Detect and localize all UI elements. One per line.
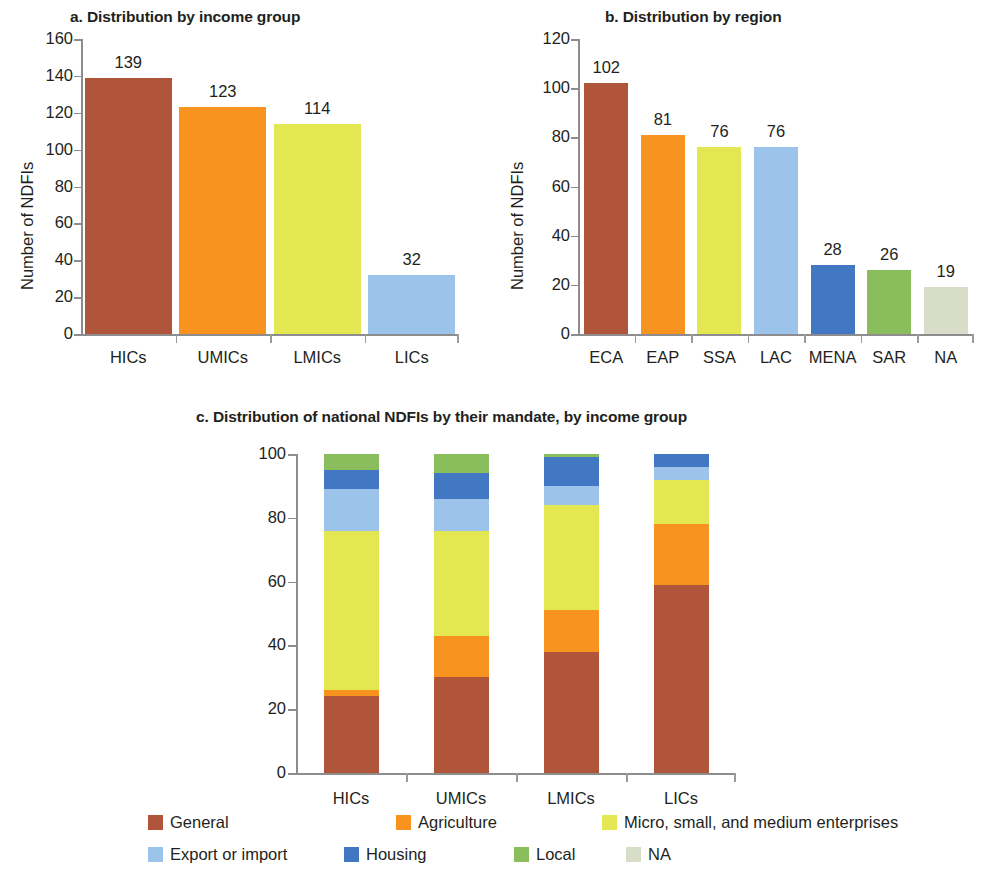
y-tick-mark [571, 187, 578, 189]
y-tick-label: 0 [238, 764, 286, 781]
y-tick-label: 80 [526, 128, 570, 145]
y-tick-label: 100 [238, 445, 286, 462]
stacked-bar-hics [324, 454, 379, 773]
figure-canvas: a. Distribution by income group Number o… [0, 0, 995, 877]
y-tick-mark [571, 137, 578, 139]
legend-swatch [626, 847, 641, 862]
y-axis-line [296, 454, 298, 773]
y-tick-mark [74, 150, 81, 152]
bar-eap [641, 135, 685, 334]
x-category-label-hics: HICs [78, 348, 178, 367]
legend-label: Local [536, 846, 575, 863]
bar-lac [754, 147, 798, 334]
legend-label: NA [648, 846, 671, 863]
x-tick-separator [748, 334, 750, 343]
x-tick-separator [626, 773, 628, 782]
x-category-label-lmics: LMICs [267, 348, 367, 367]
stack-segment [324, 470, 379, 489]
x-tick-separator [691, 334, 693, 343]
x-tick-separator [365, 334, 367, 343]
x-tick-separator [804, 334, 806, 343]
legend-label: Micro, small, and medium enterprises [624, 814, 898, 831]
legend-item: Housing [344, 846, 427, 863]
legend-swatch [148, 847, 163, 862]
legend-swatch [602, 815, 617, 830]
x-category-label-hics: HICs [296, 789, 406, 808]
stack-segment [324, 696, 379, 773]
y-tick-mark [571, 236, 578, 238]
legend-item: Export or import [148, 846, 287, 863]
y-tick-label: 40 [29, 251, 73, 268]
stack-segment [434, 531, 489, 636]
stack-segment [654, 524, 709, 585]
bar-eca [584, 83, 628, 334]
y-tick-label: 80 [238, 509, 286, 526]
x-tick-separator [457, 334, 459, 343]
legend-swatch [148, 815, 163, 830]
y-tick-label: 0 [29, 325, 73, 342]
legend-item: Micro, small, and medium enterprises [602, 814, 898, 831]
bar-value-label: 123 [183, 82, 263, 101]
x-tick-separator [917, 334, 919, 343]
stack-segment [654, 585, 709, 773]
y-axis-line [578, 39, 580, 334]
x-category-label-lics: LICs [362, 348, 462, 367]
y-tick-label: 20 [526, 276, 570, 293]
bar-lics [368, 275, 455, 334]
y-tick-mark [288, 454, 296, 456]
stack-segment [544, 486, 599, 505]
chart-c-title: c. Distribution of national NDFIs by the… [196, 408, 687, 426]
legend-swatch [396, 815, 411, 830]
stacked-bar-umics [434, 454, 489, 773]
chart-a-title: a. Distribution by income group [70, 8, 300, 26]
legend-label: Housing [366, 846, 427, 863]
y-tick-mark [571, 88, 578, 90]
legend-label: Export or import [170, 846, 287, 863]
y-tick-label: 160 [29, 30, 73, 47]
x-tick-separator [734, 773, 736, 782]
bar-lmics [274, 124, 361, 334]
chart-b-title: b. Distribution by region [605, 8, 782, 26]
stack-segment [434, 499, 489, 531]
x-category-label-umics: UMICs [173, 348, 273, 367]
bar-mena [811, 265, 855, 334]
legend-swatch [514, 847, 529, 862]
y-tick-label: 60 [526, 178, 570, 195]
y-tick-label: 80 [29, 178, 73, 195]
bar-na [924, 287, 968, 334]
y-tick-label: 100 [526, 79, 570, 96]
y-tick-label: 40 [526, 227, 570, 244]
chart-panel-b: b. Distribution by region Number of NDFI… [490, 0, 995, 395]
bar-value-label: 32 [372, 250, 452, 269]
bar-value-label: 26 [849, 245, 929, 264]
y-tick-label: 140 [29, 67, 73, 84]
legend-item: NA [626, 846, 671, 863]
x-tick-separator [176, 334, 178, 343]
bar-ssa [697, 147, 741, 334]
stack-segment [654, 467, 709, 480]
stack-segment [324, 454, 379, 470]
y-tick-label: 20 [29, 288, 73, 305]
stack-segment [654, 480, 709, 525]
x-tick-separator [270, 334, 272, 343]
legend-label: General [170, 814, 229, 831]
y-tick-mark [74, 260, 81, 262]
legend-label: Agriculture [418, 814, 497, 831]
y-tick-label: 60 [29, 214, 73, 231]
x-tick-separator [516, 773, 518, 782]
y-tick-label: 40 [238, 636, 286, 653]
stacked-bar-lics [654, 454, 709, 773]
stacked-bar-lmics [544, 454, 599, 773]
stack-segment [544, 610, 599, 651]
y-tick-label: 120 [526, 30, 570, 47]
y-tick-label: 60 [238, 573, 286, 590]
stack-segment [434, 677, 489, 773]
y-tick-label: 0 [526, 325, 570, 342]
x-tick-separator [861, 334, 863, 343]
x-category-label-lics: LICs [626, 789, 736, 808]
stack-segment [434, 473, 489, 499]
stack-segment [324, 489, 379, 530]
y-tick-label: 120 [29, 104, 73, 121]
x-tick-separator [635, 334, 637, 343]
y-tick-mark [74, 187, 81, 189]
